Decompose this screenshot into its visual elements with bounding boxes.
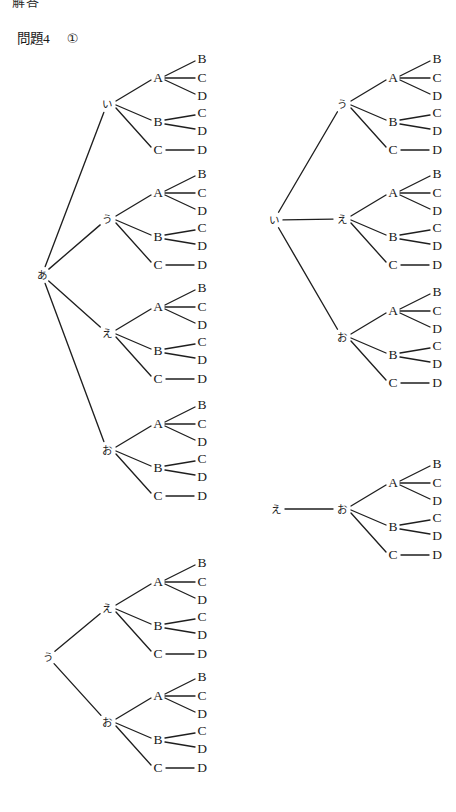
tree-i-edge-to-2 [279, 228, 338, 329]
edge-B-to-C [400, 520, 430, 525]
tree-i-branch-1: え [337, 214, 347, 225]
edge-B-to-D [165, 470, 195, 475]
tree-a-b0-leaf-A-D: D [197, 89, 207, 103]
tree-a-b1-leaf-B-D: D [197, 239, 207, 253]
tree-i-b1-leaf-A-B: B [432, 167, 441, 181]
tree-u-b1-leaf-B-D: D [197, 742, 207, 756]
edge-kana-to-C [116, 454, 151, 493]
tree-i-b1-node-C: C [388, 258, 397, 272]
tree-i-b2-leaf-C-D: D [432, 376, 442, 390]
tree-a-b2-node-C: C [153, 372, 162, 386]
edge-A-to-B [165, 176, 195, 191]
edge-A-to-D [165, 309, 195, 323]
tree-a-b0-node-A: A [153, 71, 163, 85]
edge-kana-to-C [116, 223, 151, 262]
tree-i-b0-leaf-A-C: C [432, 71, 441, 85]
edge-A-to-B [165, 290, 195, 305]
tree-e-b0-node-B: B [388, 520, 397, 534]
tree-i-b2-leaf-B-C: C [432, 339, 441, 353]
edge-kana-to-A [351, 80, 386, 101]
tree-u-b1-leaf-B-C: C [197, 724, 206, 738]
tree-i-b1-node-B: B [388, 230, 397, 244]
tree-i-b2-leaf-B-D: D [432, 357, 442, 371]
tree-u-b0-leaf-B-D: D [197, 628, 207, 642]
edge-kana-to-B [116, 334, 151, 349]
tree-i-b0-leaf-A-D: D [432, 89, 442, 103]
edge-B-to-C [165, 115, 195, 120]
tree-i-b0-node-B: B [388, 115, 397, 129]
edge-A-to-B [165, 61, 195, 76]
edge-kana-to-C [351, 108, 386, 147]
tree-a-b0-leaf-B-C: C [197, 106, 206, 120]
tree-u-root: う [43, 652, 53, 663]
edge-A-to-D [165, 426, 195, 440]
tree-u-b1-leaf-A-D: D [197, 707, 207, 721]
edge-B-to-C [165, 344, 195, 349]
problem-item-marker: ① [67, 31, 79, 46]
tree-a-b2-node-A: A [153, 300, 163, 314]
tree-a-edge-to-0 [45, 112, 104, 266]
edge-B-to-C [165, 733, 195, 738]
tree-u-b0-leaf-C-D: D [197, 647, 207, 661]
edge-kana-to-A [116, 195, 151, 216]
edge-B-to-D [400, 357, 430, 362]
edge-A-to-D [400, 80, 430, 94]
tree-u-b1-leaf-A-C: C [197, 689, 206, 703]
tree-u-b0-node-C: C [153, 647, 162, 661]
edge-kana-to-B [351, 105, 386, 120]
edge-B-to-D [165, 353, 195, 358]
tree-u-branch-1: お [102, 717, 112, 728]
edge-B-to-D [165, 742, 195, 747]
tree-e-b0-leaf-A-B: B [432, 457, 441, 471]
tree-u-edge-to-0 [55, 614, 100, 651]
tree-i-b1-leaf-B-D: D [432, 239, 442, 253]
tree-u-b1-node-C: C [153, 761, 162, 775]
edge-B-to-C [165, 619, 195, 624]
tree-i-b0-leaf-B-D: D [432, 124, 442, 138]
edge-kana-to-B [351, 338, 386, 353]
edge-kana-to-A [116, 698, 151, 719]
edge-A-to-D [165, 698, 195, 712]
edge-kana-to-A [116, 309, 151, 330]
edge-A-to-D [400, 313, 430, 327]
tree-e-b0-node-C: C [388, 548, 397, 562]
tree-i-b2-leaf-A-D: D [432, 322, 442, 336]
tree-a-b0-leaf-B-D: D [197, 124, 207, 138]
problem-number-label: 問題4 [17, 31, 50, 46]
edge-kana-to-A [351, 195, 386, 216]
tree-a-b3-leaf-B-D: D [197, 470, 207, 484]
tree-u-b1-node-B: B [153, 733, 162, 747]
tree-a-b1-node-B: B [153, 230, 162, 244]
tree-a-b0-node-B: B [153, 115, 162, 129]
tree-a-edge-to-2 [49, 281, 101, 327]
edge-B-to-D [165, 124, 195, 129]
tree-a-branch-0: い [102, 99, 112, 110]
tree-e-b0-leaf-C-D: D [432, 548, 442, 562]
tree-u-b0-leaf-A-D: D [197, 593, 207, 607]
tree-a-b1-leaf-A-D: D [197, 204, 207, 218]
tree-a-b1-leaf-B-C: C [197, 221, 206, 235]
tree-i-b1-leaf-A-D: D [432, 204, 442, 218]
edge-A-to-B [400, 176, 430, 191]
tree-a-b0-leaf-A-B: B [197, 52, 206, 66]
tree-i-b1-leaf-A-C: C [432, 186, 441, 200]
tree-i-b1-leaf-C-D: D [432, 258, 442, 272]
edge-kana-to-A [351, 313, 386, 334]
tree-a-b3-leaf-A-D: D [197, 435, 207, 449]
edge-kana-to-B [351, 220, 386, 235]
edge-kana-to-B [351, 510, 386, 525]
edge-B-to-D [165, 239, 195, 244]
tree-u-b1-leaf-C-D: D [197, 761, 207, 775]
tree-a-b1-node-A: A [153, 186, 163, 200]
tree-a-b2-leaf-A-D: D [197, 318, 207, 332]
edge-B-to-C [400, 230, 430, 235]
edge-kana-to-A [116, 426, 151, 447]
edge-B-to-C [400, 115, 430, 120]
worksheet-page: 解答 問題4① あいABCBCDCDDうABCBCDCDDえABCBCDCDDお… [0, 0, 456, 812]
tree-i-b0-node-A: A [388, 71, 398, 85]
edge-A-to-B [400, 61, 430, 76]
tree-i-b1-node-A: A [388, 186, 398, 200]
edge-kana-to-C [351, 223, 386, 262]
tree-i-b2-leaf-A-C: C [432, 304, 441, 318]
tree-a-b2-leaf-B-D: D [197, 353, 207, 367]
